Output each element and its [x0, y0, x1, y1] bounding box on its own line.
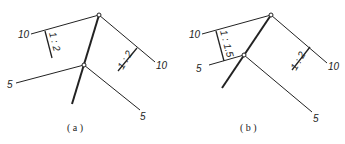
caption-b: ( b ) — [240, 122, 257, 134]
label-10-right-b: 10 — [328, 61, 340, 72]
contour-10-left-a — [31, 15, 99, 34]
vertex-top-b — [269, 13, 273, 17]
vertex-mid-b — [242, 53, 246, 57]
caption-a: ( a ) — [67, 122, 83, 134]
label-10-left-b: 10 — [189, 29, 201, 40]
diagram-root: 10 10 5 5 1 : 2 1 : 2 ( a ) 10 10 5 5 1 … — [0, 0, 345, 144]
label-5-left-b: 5 — [196, 63, 202, 74]
vertex-top-a — [97, 13, 101, 17]
vertex-mid-a — [82, 63, 86, 67]
contour-5-left-a — [16, 65, 84, 83]
slope-label-right-a: 1 : 2 — [115, 48, 134, 71]
slope-intersection-diagram: 10 10 5 5 1 : 2 1 : 2 ( a ) 10 10 5 5 1 … — [0, 0, 345, 144]
intersection-line-a — [72, 15, 99, 104]
label-5-left-a: 5 — [7, 79, 13, 90]
contour-5-right-a — [84, 65, 140, 110]
label-5-right-b: 5 — [313, 113, 319, 124]
label-10-right-a: 10 — [156, 60, 168, 71]
label-10-left-a: 10 — [18, 29, 30, 40]
figure-b — [202, 13, 327, 112]
figure-a — [16, 13, 155, 110]
label-5-right-a: 5 — [140, 111, 146, 122]
slope-label-left-b: 1 : 1.5 — [218, 29, 236, 59]
